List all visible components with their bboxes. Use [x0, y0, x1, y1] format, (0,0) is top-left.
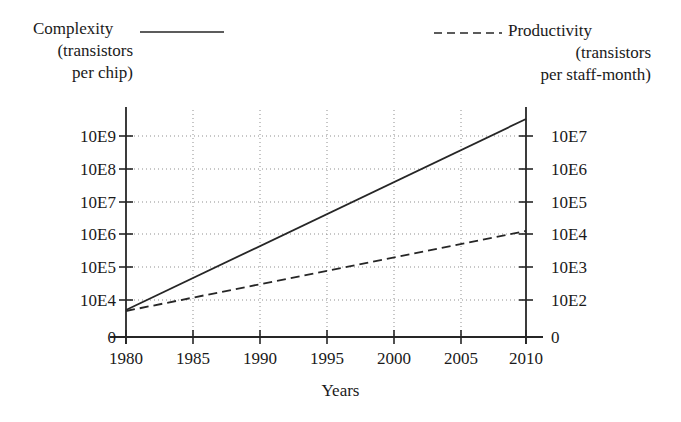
x-tick-1980: 1980 [109, 350, 143, 367]
legend-complexity-unit-2: per chip) [33, 62, 133, 84]
y-right-tick-6: 0 [551, 329, 560, 346]
x-tick-2010: 2010 [509, 350, 543, 367]
legend-complexity: Complexity (transistors per chip) [33, 18, 133, 84]
y-left-tick-0: 10E9 [80, 128, 116, 145]
y-left-tick-1: 10E8 [80, 161, 116, 178]
y-right-tick-1: 10E6 [551, 161, 587, 178]
legend-productivity-unit-1: (transistors [508, 42, 651, 64]
y-left-tick-4: 10E5 [80, 259, 116, 276]
y-left-tick-6: 0 [108, 329, 117, 346]
legend-productivity-unit-2: per staff-month) [508, 64, 651, 86]
y-left-tick-2: 10E7 [80, 194, 116, 211]
y-right-tick-3: 10E4 [551, 226, 587, 243]
y-left-tick-5: 10E4 [80, 292, 116, 309]
legend-complexity-title: Complexity [33, 18, 133, 40]
x-tick-1995: 1995 [310, 350, 344, 367]
vertical-gridlines [193, 110, 461, 337]
y-right-tick-4: 10E3 [551, 259, 587, 276]
series-line-productivity [126, 231, 526, 311]
legend-productivity: Productivity (transistors per staff-mont… [508, 20, 651, 86]
x-tick-1985: 1985 [176, 350, 210, 367]
y-right-tick-5: 10E2 [551, 292, 587, 309]
y-left-tick-3: 10E6 [80, 226, 116, 243]
legend-complexity-unit-1: (transistors [33, 40, 133, 62]
horizontal-gridlines [126, 136, 526, 300]
x-tick-2000: 2000 [377, 350, 411, 367]
chart-container: Complexity (transistors per chip) Produc… [0, 0, 681, 422]
x-tick-2005: 2005 [444, 350, 478, 367]
y-right-tick-0: 10E7 [551, 128, 587, 145]
x-tick-1990: 1990 [243, 350, 277, 367]
legend-productivity-title: Productivity [508, 20, 651, 42]
y-right-tick-2: 10E5 [551, 194, 587, 211]
series-line-complexity [126, 119, 526, 310]
x-axis-title: Years [0, 381, 681, 401]
